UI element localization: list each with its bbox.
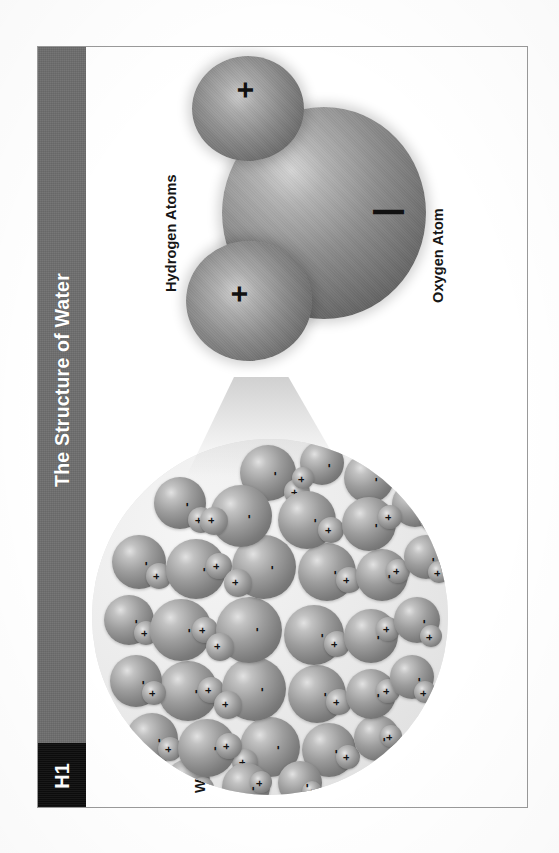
water-molecule: -+	[300, 441, 344, 485]
water-molecules-closeup: -+-+-+-+-+-+-+-+-+-+-+-+-+-+-+-+-+-+-+-+…	[92, 439, 448, 795]
charge-plus: +	[306, 789, 317, 795]
water-molecule: -+	[126, 713, 178, 765]
charge-minus: -	[426, 557, 439, 561]
figure-page: The Structure of Water H1 Hydrogen Atoms…	[37, 46, 528, 808]
figure-artwork: Hydrogen Atoms Oxygen Atom Water Molecul…	[86, 47, 527, 807]
charge-plus: +	[206, 517, 217, 523]
water-molecule: -+	[216, 597, 282, 663]
charge-plus: +	[385, 456, 396, 462]
charge-plus-top: +	[230, 81, 260, 99]
water-molecule: -+	[178, 719, 236, 777]
charge-plus: +	[220, 701, 231, 707]
charge-plus: +	[197, 627, 208, 633]
water-molecule: -+	[346, 669, 396, 719]
charge-plus: +	[341, 577, 352, 583]
charge-plus: +	[391, 568, 402, 574]
charge-plus: +	[139, 630, 150, 636]
charge-plus: +	[212, 643, 223, 649]
charge-minus: -	[412, 677, 425, 681]
charge-minus: -	[328, 570, 341, 574]
charge-plus: +	[163, 746, 174, 752]
water-molecule: -+	[158, 661, 218, 721]
water-molecule: -+	[112, 535, 166, 589]
chapter-title-bar: The Structure of Water	[38, 47, 86, 808]
water-molecule: -+	[342, 497, 396, 551]
water-molecule: -+	[110, 655, 162, 707]
hydrogen-atom-sphere-top	[192, 56, 304, 161]
water-molecule: -+	[284, 605, 344, 665]
charge-minus: -	[182, 628, 195, 632]
charge-minus: -	[315, 633, 328, 637]
charge-plus: +	[424, 634, 435, 640]
water-molecule: -+	[356, 549, 408, 601]
water-molecule: -+	[390, 655, 434, 699]
water-molecule: -+	[394, 597, 440, 643]
charge-minus: -	[242, 514, 255, 518]
charge-plus: +	[296, 476, 307, 482]
charge-plus: +	[432, 570, 443, 576]
charge-plus: +	[196, 786, 207, 792]
charge-plus: +	[331, 699, 342, 705]
charge-plus-bottom: +	[224, 285, 254, 303]
charge-minus: -	[329, 749, 342, 753]
charge-plus: +	[203, 687, 214, 693]
charge-minus: -	[369, 477, 382, 481]
water-molecule: -+	[298, 543, 356, 601]
charge-minus: -	[189, 689, 202, 693]
water-molecule: -+	[278, 491, 336, 549]
charge-minus-oxygen: |	[368, 207, 402, 217]
charge-plus: +	[221, 743, 232, 749]
chapter-code-chip: H1	[38, 743, 86, 808]
water-molecule: -+	[354, 715, 400, 761]
charge-plus: +	[424, 518, 435, 524]
water-molecule: -+	[150, 599, 212, 661]
charge-minus: -	[308, 518, 321, 522]
charge-minus: -	[246, 786, 259, 790]
label-hydrogen-atoms: Hydrogen Atoms	[163, 174, 179, 292]
charge-minus: -	[255, 687, 268, 691]
water-molecule: -+	[344, 453, 394, 503]
water-molecule: -+	[210, 485, 272, 547]
charge-plus: +	[230, 579, 241, 585]
chapter-title: The Structure of Water	[51, 273, 74, 583]
charge-minus: -	[129, 619, 142, 623]
water-molecule: -+	[166, 539, 226, 599]
water-molecule-diagram: + + |	[184, 55, 484, 405]
charge-minus: -	[152, 738, 165, 742]
charge-minus: -	[318, 692, 331, 696]
charge-plus: +	[383, 514, 394, 520]
charge-minus: -	[265, 565, 278, 569]
charge-minus: -	[382, 574, 395, 578]
charge-plus: +	[323, 527, 334, 533]
water-molecule: -+	[222, 657, 286, 721]
charge-minus: -	[417, 619, 430, 623]
charge-minus: -	[369, 523, 382, 527]
charge-minus: -	[268, 471, 281, 475]
charge-minus: -	[371, 635, 384, 639]
charge-minus: -	[197, 567, 210, 571]
charge-plus: +	[384, 734, 395, 740]
charge-plus: +	[147, 690, 158, 696]
water-molecule: -+	[154, 477, 206, 529]
charge-minus: -	[208, 746, 221, 750]
water-molecule: -+	[104, 595, 154, 645]
charge-minus: -	[188, 781, 201, 785]
charge-minus: -	[322, 463, 335, 467]
charge-plus: +	[329, 641, 340, 647]
charge-plus: +	[151, 573, 162, 579]
charge-plus: +	[211, 563, 222, 569]
charge-minus: -	[271, 745, 284, 749]
water-molecule: -+	[404, 535, 448, 579]
chapter-title-label: The Structure of Water	[51, 273, 74, 583]
charge-minus: -	[139, 561, 152, 565]
charge-minus: -	[250, 627, 263, 631]
water-molecule: -+	[288, 665, 346, 723]
charge-plus: +	[254, 780, 265, 786]
charge-minus: -	[300, 783, 313, 787]
charge-minus: -	[415, 503, 428, 507]
water-molecule: -+	[278, 761, 322, 795]
charge-minus: -	[136, 680, 149, 684]
charge-plus: +	[381, 626, 392, 632]
charge-plus: +	[341, 754, 352, 760]
charge-minus: -	[180, 502, 193, 506]
